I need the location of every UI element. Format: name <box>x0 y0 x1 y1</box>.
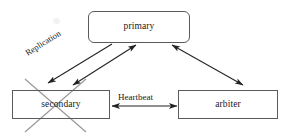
node-secondary[interactable]: secondary <box>12 90 110 119</box>
node-arbiter-label: arbiter <box>215 100 241 110</box>
diagram-canvas: primary secondary arbiter Replication He… <box>0 0 285 138</box>
edge-primary-arbiter <box>172 45 243 85</box>
edge-primary-secondary <box>73 45 136 85</box>
node-primary[interactable]: primary <box>88 11 190 43</box>
node-secondary-label: secondary <box>41 100 80 110</box>
edge-label-heartbeat: Heartbeat <box>118 93 153 102</box>
node-arbiter[interactable]: arbiter <box>178 90 278 119</box>
edge-replication <box>48 44 112 83</box>
node-primary-label: primary <box>124 22 155 32</box>
